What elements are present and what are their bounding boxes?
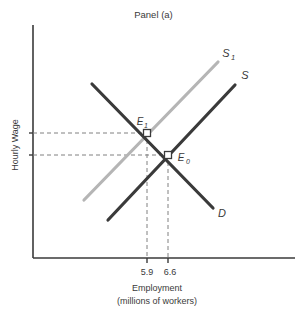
equilibrium-label-e1-subscript: 1 [144, 122, 148, 129]
chart-background [0, 0, 307, 312]
curve-label-s: S [241, 69, 249, 81]
x-tick-label-6-6: 6.6 [164, 267, 177, 277]
y-axis-title: Hourly Wage [10, 119, 20, 171]
economics-supply-demand-figure: Panel (a) Hourly Wage Employment (millio… [0, 0, 307, 312]
x-axis-title: Employment [132, 283, 183, 293]
equilibrium-label-e0: E [178, 152, 185, 163]
curve-label-d: D [218, 207, 226, 219]
equilibrium-marker-e0 [165, 152, 172, 159]
equilibrium-label-e1: E [137, 116, 144, 127]
panel-title: Panel (a) [134, 9, 173, 20]
equilibrium-label-e0-subscript: 0 [186, 158, 190, 165]
x-axis-subtitle: (millions of workers) [117, 296, 197, 306]
chart-canvas: Panel (a) Hourly Wage Employment (millio… [0, 0, 307, 312]
curve-label-s1-subscript: 1 [231, 53, 235, 62]
curve-label-s1: S [222, 47, 230, 59]
x-tick-label-5-9: 5.9 [141, 267, 154, 277]
equilibrium-marker-e1 [144, 130, 151, 137]
